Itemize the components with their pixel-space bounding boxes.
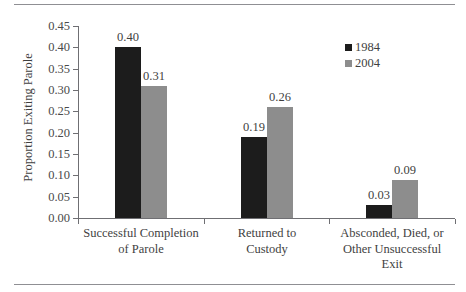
x-category-label-line: Successful Completion [78, 226, 204, 242]
y-tick-label: 0.05 [30, 191, 70, 204]
bars-layer: 0.400.310.190.260.030.09 [78, 26, 455, 218]
bar-chart-figure: Proportion Exiting Parole 0.450.400.350.… [0, 0, 466, 292]
x-category-label-line: Absconded, Died, or [329, 226, 455, 242]
bottom-divider-rule [14, 284, 455, 285]
x-category-label-line: Other Unsuccessful [329, 242, 455, 258]
y-tick-label: 0.30 [30, 84, 70, 97]
bar-value-label: 0.09 [385, 164, 425, 177]
bar-value-label: 0.40 [108, 31, 148, 44]
x-axis-line [78, 218, 455, 219]
x-tick-mark [455, 219, 456, 224]
y-tick-label: 0.20 [30, 127, 70, 140]
y-tick-label: 0.35 [30, 63, 70, 76]
legend-swatch-1984-icon [345, 44, 352, 51]
x-category-label-line: Custody [204, 242, 330, 258]
y-tick-label: 0.25 [30, 105, 70, 118]
x-category-label: Returned toCustody [204, 226, 330, 257]
x-tick-mark [204, 219, 205, 224]
bar-value-label: 0.31 [134, 70, 174, 83]
x-tick-mark [329, 219, 330, 224]
legend-label-1984: 1984 [355, 39, 380, 55]
bar-2004-cat0 [141, 86, 167, 218]
y-tick-label: 0.40 [30, 41, 70, 54]
top-divider-rule [14, 4, 455, 5]
legend-item-1984: 1984 [345, 39, 380, 55]
x-category-label: Absconded, Died, orOther UnsuccessfulExi… [329, 226, 455, 273]
y-tick-label: 0.10 [30, 169, 70, 182]
bar-1984-cat1 [241, 137, 267, 218]
y-tick-label: 0.45 [30, 20, 70, 33]
bar-1984-cat2 [366, 205, 392, 218]
chart-legend: 1984 2004 [345, 39, 380, 71]
legend-swatch-2004-icon [345, 60, 352, 67]
legend-item-2004: 2004 [345, 55, 380, 71]
x-category-label-line: Returned to [204, 226, 330, 242]
bar-2004-cat1 [267, 107, 293, 218]
bar-2004-cat2 [392, 180, 418, 218]
x-tick-mark [78, 219, 79, 224]
y-tick-label: 0.15 [30, 148, 70, 161]
x-category-label-line: Exit [329, 257, 455, 273]
x-category-label-line: of Parole [78, 242, 204, 258]
legend-label-2004: 2004 [355, 55, 380, 71]
bar-value-label: 0.26 [260, 91, 300, 104]
x-category-label: Successful Completionof Parole [78, 226, 204, 257]
y-tick-label: 0.00 [30, 212, 70, 225]
